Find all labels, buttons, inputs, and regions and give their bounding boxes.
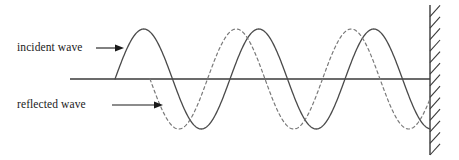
reflected-wave-arrow [112,101,163,108]
diagram-canvas [0,0,459,160]
wave-reflection-diagram: incident wave reflected wave [0,0,459,160]
incident-wave-arrow [96,44,124,51]
reflected-wave-label: reflected wave [17,98,86,110]
incident-wave-label: incident wave [17,41,82,53]
wall-hatching [430,5,440,155]
